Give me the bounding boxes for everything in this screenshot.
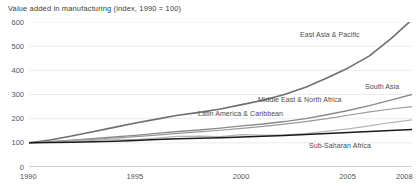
y-tick-label: 500 [2, 42, 24, 51]
y-tick-label: 300 [2, 90, 24, 99]
series-label-south-asia: South Asia [365, 83, 399, 90]
series-lines [29, 22, 412, 143]
series-label-sub-saharan-africa: Sub-Saharan Africa [309, 142, 371, 149]
x-tick-label: 1990 [20, 172, 37, 181]
gridlines [29, 22, 412, 143]
x-tick-label: 2008 [396, 172, 413, 181]
x-tick-label: 1995 [126, 172, 143, 181]
y-tick-label: 200 [2, 114, 24, 123]
series-label-latin-america-caribbean: Latin America & Caribbean [198, 110, 283, 117]
y-tick-label: 600 [2, 18, 24, 27]
series-label-east-asia-pacific: East Asia & Pacific [300, 31, 360, 38]
x-tick-label: 2005 [339, 172, 356, 181]
y-tick-label: 400 [2, 66, 24, 75]
y-tick-label: 100 [2, 138, 24, 147]
x-tick-label: 2000 [233, 172, 250, 181]
series-label-middle-east-north-africa: Middle East & North Africa [258, 96, 342, 103]
series-line-east-asia-pacific [29, 22, 412, 143]
y-tick-label: 0 [2, 163, 24, 172]
chart-title: Value added in manufacturing (index, 199… [8, 4, 181, 13]
chart-container: Value added in manufacturing (index, 199… [0, 0, 419, 188]
